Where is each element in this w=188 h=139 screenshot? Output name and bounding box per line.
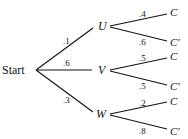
node-u: U (98, 20, 107, 32)
probability-tree-diagram: Start .1 .6 .3 U V W .4 .6 .5 .5 .2 .8 C… (0, 0, 188, 139)
prob-w-cprime: .8 (139, 127, 146, 136)
leaf-v-cprime: C′ (170, 81, 180, 92)
prob-u-c: .4 (139, 10, 146, 19)
node-v: V (98, 64, 105, 76)
prob-start-w: .3 (63, 96, 70, 105)
prob-start-u: .1 (63, 37, 70, 46)
leaf-w-c: C (170, 96, 177, 107)
leaf-v-c: C (170, 51, 177, 62)
node-w: W (96, 108, 106, 120)
root-node-start: Start (2, 64, 25, 76)
leaf-w-cprime: C′ (170, 126, 180, 137)
prob-v-cprime: .5 (139, 82, 146, 91)
prob-u-cprime: .6 (139, 38, 146, 47)
prob-w-c: .2 (139, 99, 146, 108)
branch-start-w (36, 70, 93, 112)
leaf-u-c: C (170, 7, 177, 18)
prob-start-v: .6 (63, 59, 70, 68)
tree-branches (0, 0, 188, 139)
leaf-u-cprime: C′ (170, 37, 180, 48)
prob-v-c: .5 (139, 54, 146, 63)
